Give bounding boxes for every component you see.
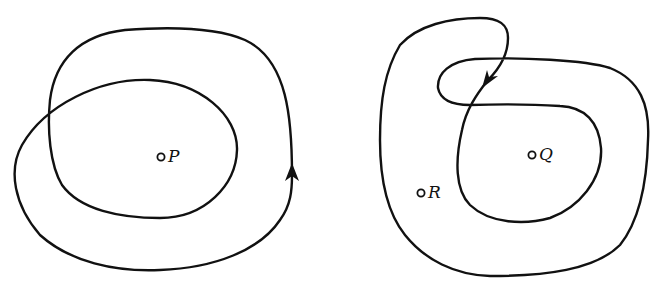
left-figure <box>15 28 299 270</box>
point-r-marker <box>417 189 424 196</box>
right-figure <box>380 18 648 276</box>
point-q-marker <box>528 151 535 158</box>
winding-number-diagram: P Q R <box>0 0 652 292</box>
point-p-label: P <box>168 148 179 165</box>
point-r-label: R <box>428 184 441 201</box>
point-q-label: Q <box>539 146 553 163</box>
left-curve <box>15 28 292 270</box>
right-curve <box>380 18 648 276</box>
diagram-svg <box>0 0 652 292</box>
point-p-marker <box>157 153 164 160</box>
